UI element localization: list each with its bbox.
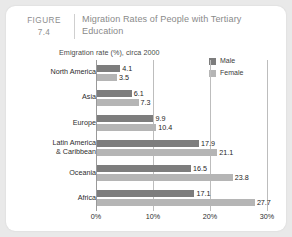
figure-title: Migration Rates of People with Tertiary … [82,14,278,37]
bar-value-label: 27.7 [257,199,271,206]
bar-female[interactable] [97,74,117,81]
category-label-europe: Europe [18,119,96,128]
bar-value-label: 7.3 [141,99,151,106]
chart-area: Emigration rate (%), circa 2000 MaleFema… [6,46,286,231]
category-label-africa: Africa [18,194,96,203]
x-tick-label: 30% [260,212,274,221]
bar-male[interactable] [97,90,132,97]
category-label-north-america: North America [18,68,96,77]
category-label-line: Asia [18,93,96,102]
bar-female[interactable] [97,174,233,181]
bar-value-label: 10.4 [158,124,172,131]
gridline-10 [153,60,154,211]
figure-header: FIGURE 7.4 Migration Rates of People wit… [6,6,286,46]
x-tick-label: 0% [91,212,101,221]
x-tick-label: 10% [146,212,160,221]
gridline-20 [210,60,211,211]
bar-value-label: 23.8 [235,174,249,181]
category-label-line: North America [18,68,96,77]
bar-female[interactable] [97,199,255,206]
figure-card: FIGURE 7.4 Migration Rates of People wit… [6,6,286,231]
gridline-30 [267,60,268,211]
bar-value-label: 3.5 [119,74,129,81]
bar-male[interactable] [97,140,199,147]
figure-number-value: 7.4 [18,27,70,39]
bar-value-label: 17.9 [201,140,215,147]
bar-value-label: 17.1 [196,190,210,197]
category-label-latin-america-caribbean: Latin America& Caribbean [18,139,96,156]
bar-male[interactable] [97,190,194,197]
bar-group: 9.910.4 [97,115,268,131]
plot-area: 4.13.56.17.39.910.417.921.116.523.817.12… [96,60,268,211]
category-label-line: Africa [18,194,96,203]
bar-group: 16.523.8 [97,165,268,181]
bar-value-label: 4.1 [122,65,132,72]
bar-group: 17.127.7 [97,190,268,206]
chart-subtitle: Emigration rate (%), circa 2000 [59,48,160,57]
bar-male[interactable] [97,165,191,172]
bar-female[interactable] [97,124,156,131]
category-label-line: Europe [18,119,96,128]
bar-male[interactable] [97,115,153,122]
header-divider [74,14,75,39]
category-label-line: & Caribbean [18,148,96,157]
category-label-line: Oceania [18,169,96,178]
figure-number-word: FIGURE [18,15,70,27]
bar-value-label: 6.1 [134,90,144,97]
bar-group: 17.921.1 [97,140,268,156]
category-label-asia: Asia [18,93,96,102]
bar-male[interactable] [97,65,120,72]
bar-value-label: 21.1 [219,149,233,156]
bar-group: 6.17.3 [97,90,268,106]
y-axis-line [96,60,97,211]
bar-group: 4.13.5 [97,65,268,81]
x-axis-ticks: 0%10%20%30% [96,211,271,225]
figure-number: FIGURE 7.4 [18,15,70,38]
bar-female[interactable] [97,149,217,156]
bar-value-label: 16.5 [193,165,207,172]
category-label-oceania: Oceania [18,169,96,178]
bar-value-label: 9.9 [155,115,165,122]
bar-female[interactable] [97,99,139,106]
x-tick-label: 20% [203,212,217,221]
